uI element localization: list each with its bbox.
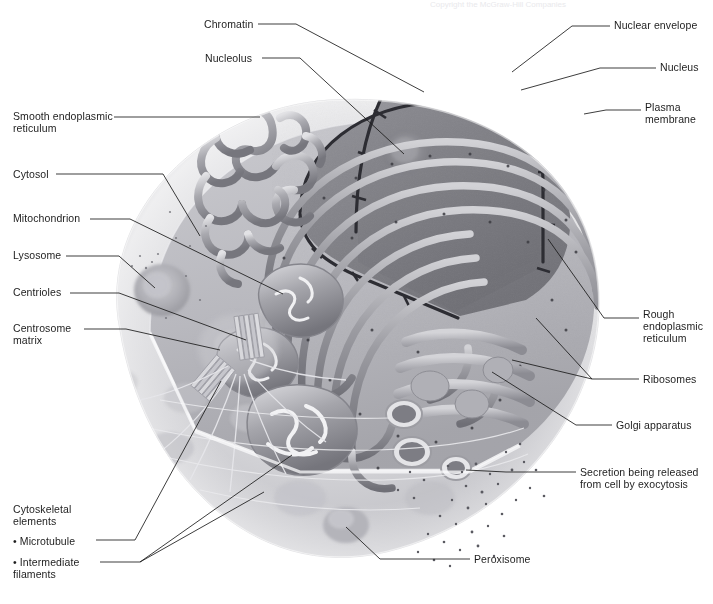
label-centrosome[interactable]: Centrosome matrix <box>13 322 71 346</box>
label-nucleolus[interactable]: Nucleolus <box>205 52 252 64</box>
label-golgi-apparatus[interactable]: Golgi apparatus <box>616 419 692 431</box>
label-cytoskeletal[interactable]: Cytoskeletal elements <box>13 503 71 527</box>
label-smooth-er[interactable]: Smooth endoplasmic reticulum <box>13 110 113 134</box>
label-mitochondrion[interactable]: Mitochondrion <box>13 212 80 224</box>
label-rough-er[interactable]: Rough endoplasmic reticulum <box>643 308 703 345</box>
label-cytosol[interactable]: Cytosol <box>13 168 49 180</box>
label-secretion[interactable]: Secretion being released from cell by ex… <box>580 466 699 490</box>
label-nucleus[interactable]: Nucleus <box>660 61 699 73</box>
cell-illustration <box>0 0 713 604</box>
lysosome-shape <box>134 264 190 316</box>
label-plasma-membrane[interactable]: Plasma membrane <box>645 101 696 125</box>
figure-canvas: Copyright the McGraw-Hill Companies <box>0 0 713 604</box>
label-microtubule[interactable]: • Microtubule <box>13 535 75 547</box>
label-peroxisome[interactable]: Peroxisome <box>474 553 530 565</box>
label-intermediate-filaments[interactable]: • Intermediate filaments <box>13 556 79 580</box>
label-centrioles[interactable]: Centrioles <box>13 286 61 298</box>
mitochondrion-shape-3 <box>247 385 357 475</box>
label-nuclear-envelope[interactable]: Nuclear envelope <box>614 19 697 31</box>
peroxisome-shape <box>323 507 369 543</box>
label-lysosome[interactable]: Lysosome <box>13 249 61 261</box>
label-chromatin[interactable]: Chromatin <box>204 18 253 30</box>
label-ribosomes[interactable]: Ribosomes <box>643 373 696 385</box>
